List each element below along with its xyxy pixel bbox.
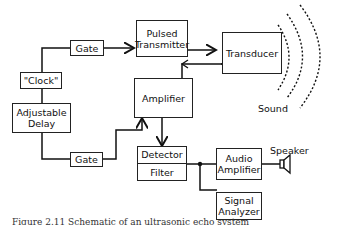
gate-top-label: Gate: [76, 43, 99, 54]
speaker-label: Speaker: [270, 145, 309, 156]
detector-filter-divider: [138, 163, 186, 164]
clock-label: "Clock": [24, 75, 59, 86]
figure-caption: Figure 2.11 Schematic of an ultrasonic e…: [12, 217, 249, 225]
gate-bottom-block: Gate: [70, 152, 103, 167]
gate-top-block: Gate: [70, 40, 104, 56]
gate-bottom-label: Gate: [75, 154, 98, 165]
detector-label: Detector: [141, 149, 182, 160]
amplifier-block: Amplifier: [134, 78, 193, 118]
detector-filter-block: Detector Filter: [137, 146, 187, 181]
speaker-icon: [280, 155, 290, 173]
audio-amplifier-block: Audio Amplifier: [216, 148, 262, 180]
pulsed-transmitter-block: Pulsed Transmitter: [136, 20, 188, 57]
filter-label: Filter: [150, 167, 174, 178]
sound-waves-icon: [278, 5, 320, 108]
transducer-label: Transducer: [226, 48, 278, 59]
audio-amplifier-label-2: Amplifier: [218, 164, 261, 175]
amplifier-label: Amplifier: [142, 93, 185, 104]
signal-analyzer-block: Signal Analyzer: [216, 192, 262, 220]
transducer-block: Transducer: [222, 32, 282, 74]
signal-analyzer-label-1: Signal: [224, 195, 253, 206]
clock-block: "Clock": [20, 72, 62, 89]
signal-analyzer-label-2: Analyzer: [218, 206, 259, 217]
pulsed-transmitter-label-2: Transmitter: [135, 39, 189, 50]
sound-label: Sound: [258, 103, 288, 114]
adjustable-delay-block: Adjustable Delay: [12, 103, 71, 133]
audio-amplifier-label-1: Audio: [225, 153, 252, 164]
adjustable-delay-label-1: Adjustable: [16, 107, 66, 118]
adjustable-delay-label-2: Delay: [28, 118, 55, 129]
pulsed-transmitter-label-1: Pulsed: [146, 28, 177, 39]
